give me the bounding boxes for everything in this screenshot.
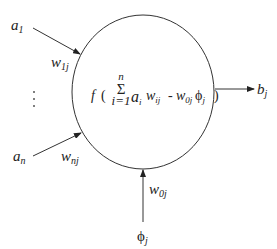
- bias-term-w: w0j: [176, 88, 192, 105]
- diagram-graphics: [0, 0, 277, 249]
- weight-nj-label: wnj: [61, 149, 79, 166]
- output-label: bj: [257, 82, 267, 99]
- ellipsis-dot: [33, 98, 35, 100]
- bias-weight-label: w0j: [149, 182, 167, 199]
- neuron-diagram: a1 w1j an wnj bj w0j ϕj f ( n Σ i=1 ai w…: [0, 0, 277, 249]
- weight-1j-label: w1j: [51, 55, 69, 72]
- ellipsis-dot: [33, 91, 35, 93]
- ellipsis-dot: [33, 105, 35, 107]
- term-a: ai: [131, 88, 142, 107]
- summation: n Σ i=1: [110, 71, 132, 107]
- input-n-label: an: [13, 149, 26, 166]
- bias-input-label: ϕj: [137, 229, 148, 246]
- close-paren: ): [214, 88, 219, 104]
- function-f: f: [91, 88, 95, 104]
- minus: -: [168, 88, 173, 104]
- input-1-label: a1: [11, 18, 24, 35]
- activation-formula: f ( n Σ i=1 ai wij - w0j ϕj ): [88, 78, 218, 118]
- bias-term-phi: ϕj: [195, 88, 205, 105]
- open-paren: (: [101, 88, 106, 104]
- input-1-arrow: [33, 28, 80, 54]
- term-w: wij: [146, 88, 160, 105]
